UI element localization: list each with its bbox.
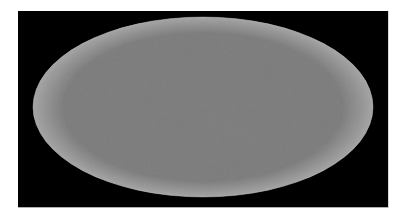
sky-map-figure-frame	[18, 11, 388, 207]
rim-highlight	[33, 17, 373, 197]
figure-bottom-rule	[18, 207, 388, 208]
figure-right-rule	[388, 11, 389, 208]
cmb-all-sky-map	[18, 11, 388, 207]
figure-page: Mollweide	[0, 0, 407, 221]
